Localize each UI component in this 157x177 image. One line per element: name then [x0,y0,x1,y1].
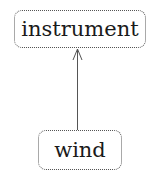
node-wind[interactable]: wind [38,130,122,170]
node-label: wind [54,138,106,162]
node-instrument[interactable]: instrument [14,10,146,48]
node-label: instrument [21,17,138,41]
edge-wind-to-instrument [73,49,82,130]
